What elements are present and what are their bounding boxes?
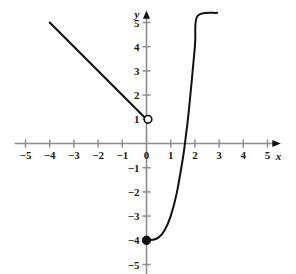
y-tick-label-2: 2	[134, 89, 140, 101]
x-tick-label--4: −4	[44, 149, 56, 161]
x-tick-label--5: −5	[20, 149, 32, 161]
series-line-segment	[50, 23, 147, 120]
series-cubic-curve	[147, 13, 218, 241]
open-circle-at-0-1	[144, 116, 152, 124]
x-tick-label--1: −1	[116, 149, 128, 161]
x-tick-label-1: 1	[168, 149, 174, 161]
x-axis-arrow-icon	[272, 140, 280, 147]
x-tick-label-3: 3	[216, 149, 222, 161]
y-axis-arrow-icon	[143, 10, 150, 18]
y-tick-label-4: 4	[134, 41, 140, 53]
y-tick-label-3: 3	[134, 65, 140, 77]
y-tick-label--3: −3	[128, 210, 140, 222]
y-tick-label--2: −2	[128, 186, 140, 198]
y-tick-label--1: −1	[128, 162, 140, 174]
x-tick-label-5: 5	[265, 149, 271, 161]
plot-area: −5−4−3−2−1012345−5−4−3−2−112345xy	[0, 0, 296, 274]
filled-dot-at-0-minus-4	[142, 236, 150, 244]
x-tick-label--3: −3	[68, 149, 80, 161]
x-tick-label-4: 4	[241, 149, 247, 161]
y-tick-label--4: −4	[128, 234, 140, 246]
x-tick-label-0: 0	[144, 149, 150, 161]
x-tick-label-2: 2	[192, 149, 198, 161]
x-tick-label--2: −2	[92, 149, 104, 161]
y-tick-label-1: 1	[134, 113, 140, 125]
y-axis-label: y	[133, 8, 140, 20]
x-axis-label: x	[275, 150, 282, 162]
piecewise-function-graph: −5−4−3−2−1012345−5−4−3−2−112345xy	[0, 0, 296, 274]
y-tick-label--5: −5	[128, 259, 140, 271]
